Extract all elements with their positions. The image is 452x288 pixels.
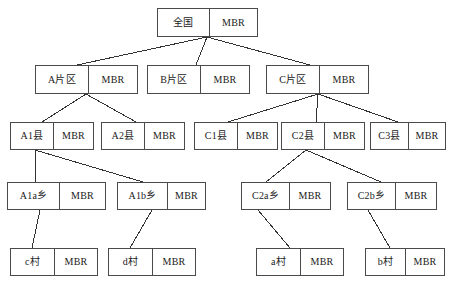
node-label-a1a: A1a乡 [8,183,60,209]
node-mbr-vb: MBR [406,249,444,275]
node-label-root: 全国 [158,9,210,36]
tree-node-b[interactable]: B片区MBR [147,65,250,94]
tree-node-c2b[interactable]: C2b乡MBR [347,182,437,210]
node-label-c2a: C2a乡 [242,183,290,209]
tree-node-c2a[interactable]: C2a乡MBR [241,182,331,210]
tree-node-a1b[interactable]: A1b乡MBR [117,182,206,210]
mbr-tree-diagram: 全国MBRA片区MBRB片区MBRC片区MBRA1县MBRA2县MBRC1县MB… [0,0,452,288]
node-label-b: B片区 [148,66,201,93]
node-label-c2: C2县 [282,123,325,149]
node-label-a2: A2县 [102,123,145,149]
tree-node-vb[interactable]: b村MBR [365,248,445,276]
tree-edge-a1b-to-vd [130,210,152,248]
node-mbr-b: MBR [201,66,249,93]
tree-edge-a-to-a2 [86,94,136,122]
node-mbr-c2b: MBR [396,183,436,209]
node-label-c2b: C2b乡 [348,183,396,209]
node-mbr-a2: MBR [145,123,184,149]
tree-node-a[interactable]: A片区MBR [35,65,138,94]
node-label-vc: c村 [11,249,55,275]
tree-node-a1a[interactable]: A1a乡MBR [7,182,106,210]
tree-node-c2[interactable]: C2县MBR [281,122,365,150]
tree-edge-c-to-c1 [228,94,318,122]
tree-node-a1[interactable]: A1县MBR [10,122,94,150]
node-mbr-root: MBR [210,9,257,36]
node-mbr-c: MBR [320,66,368,93]
node-mbr-c1: MBR [238,123,277,149]
node-mbr-a1: MBR [54,123,93,149]
tree-node-c3[interactable]: C3县MBR [370,122,446,150]
tree-edge-c2b-to-vb [368,210,390,248]
tree-edge-root-to-c [207,37,310,65]
node-label-a: A片区 [36,66,89,93]
tree-edge-c-to-c3 [318,94,398,122]
node-mbr-c2: MBR [325,123,364,149]
tree-edge-c2a-to-va [258,210,290,248]
tree-node-root[interactable]: 全国MBR [157,8,258,37]
tree-node-a2[interactable]: A2县MBR [101,122,185,150]
tree-edge-root-to-b [196,37,207,65]
node-mbr-a1b: MBR [168,183,205,209]
tree-node-c[interactable]: C片区MBR [266,65,369,94]
tree-node-vd[interactable]: d村MBR [108,248,196,276]
node-mbr-vd: MBR [153,249,195,275]
node-label-va: a村 [257,249,301,275]
node-label-a1: A1县 [11,123,54,149]
node-mbr-a: MBR [89,66,137,93]
tree-edge-a1a-to-vc [32,210,40,248]
tree-edge-c-to-c2 [316,94,318,122]
tree-node-va[interactable]: a村MBR [256,248,344,276]
node-mbr-c2a: MBR [290,183,330,209]
node-label-c1: C1县 [195,123,238,149]
tree-edge-root-to-a [77,37,207,65]
node-mbr-vc: MBR [55,249,97,275]
node-mbr-va: MBR [301,249,343,275]
node-mbr-c3: MBR [409,123,445,149]
node-label-c: C片区 [267,66,320,93]
node-label-a1b: A1b乡 [118,183,168,209]
node-mbr-a1a: MBR [60,183,105,209]
node-label-vb: b村 [366,249,406,275]
node-label-vd: d村 [109,249,153,275]
tree-edge-a-to-a1 [42,94,86,122]
tree-node-vc[interactable]: c村MBR [10,248,98,276]
tree-edge-a1-to-a1b [35,150,143,182]
tree-node-c1[interactable]: C1县MBR [194,122,278,150]
node-label-c3: C3县 [371,123,409,149]
tree-edge-c2-to-c2b [306,150,381,182]
tree-edge-c2-to-c2a [266,150,306,182]
